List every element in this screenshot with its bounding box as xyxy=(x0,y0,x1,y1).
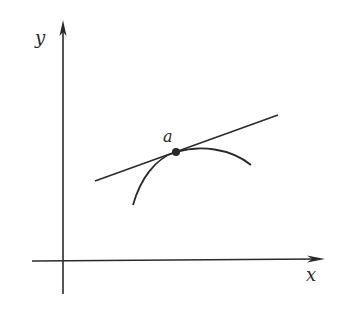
x-axis xyxy=(32,256,325,263)
y-axis xyxy=(60,20,67,294)
diagram-canvas: a y x xyxy=(0,0,339,311)
tangent-diagram: a y x xyxy=(0,0,339,311)
point-a xyxy=(172,148,180,156)
x-axis-label: x xyxy=(306,264,316,285)
tangent-line xyxy=(95,115,278,181)
curve xyxy=(133,148,251,205)
point-label: a xyxy=(163,127,173,146)
y-axis-label: y xyxy=(34,27,46,48)
